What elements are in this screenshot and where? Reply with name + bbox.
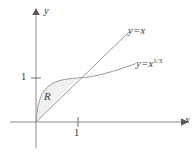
y-axis-arrow-icon bbox=[32, 8, 40, 15]
curve-label-linear-lhs: y bbox=[128, 25, 133, 36]
curve-label-cuberoot-exponent: 1/3 bbox=[153, 57, 162, 64]
math-figure: y=x y=x1/3 x y 1 1 R bbox=[0, 0, 196, 155]
curve-label-cuberoot-lhs: y bbox=[136, 58, 141, 69]
x-tick-label-1: 1 bbox=[74, 128, 79, 139]
curve-label-cuberoot: y=x1/3 bbox=[136, 59, 162, 70]
x-axis-label: x bbox=[185, 115, 190, 126]
region-label-R: R bbox=[44, 91, 51, 102]
curve-label-linear-equals: = bbox=[133, 25, 141, 36]
y-axis-label: y bbox=[44, 6, 49, 17]
curve-label-cuberoot-equals: = bbox=[141, 58, 149, 69]
y-tick-label-1: 1 bbox=[21, 72, 26, 83]
figure-canvas bbox=[0, 0, 196, 155]
curve-label-linear-rhs: x bbox=[141, 25, 146, 36]
curve-linear bbox=[36, 32, 129, 122]
curve-label-linear: y=x bbox=[128, 26, 145, 37]
